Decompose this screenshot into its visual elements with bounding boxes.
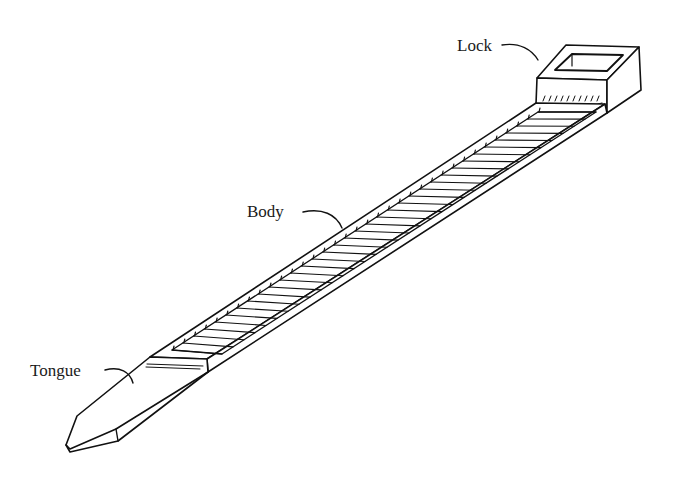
body-leader-line bbox=[303, 211, 342, 228]
tongue-label: Tongue bbox=[30, 362, 81, 379]
body-label: Body bbox=[247, 203, 284, 220]
lock-leader-line bbox=[502, 44, 538, 60]
strap-body bbox=[150, 103, 607, 372]
lock-label: Lock bbox=[457, 37, 492, 54]
cable-tie-diagram: Lock Body Tongue bbox=[0, 0, 673, 477]
tongue bbox=[66, 357, 208, 452]
cable-tie-drawing bbox=[0, 0, 673, 477]
